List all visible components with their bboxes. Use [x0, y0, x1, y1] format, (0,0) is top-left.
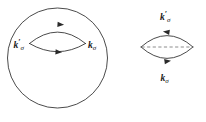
left-lower-arrow-icon	[55, 49, 62, 55]
figure-root: k′σ kσ k′σ kσ	[0, 0, 206, 122]
left-lens-upper-arc	[30, 32, 86, 44]
right-sigma-subscript: σ	[167, 16, 171, 24]
right-lens-lower-arc	[141, 47, 193, 59]
right-sigma-subscript-2: σ	[165, 77, 169, 85]
left-sigma-subscript-2: σ	[93, 43, 97, 51]
right-lens-upper-arc	[141, 36, 193, 48]
diagram-canvas: k′σ kσ k′σ kσ	[0, 0, 206, 122]
left-label-k-prime-sigma: k′σ	[14, 38, 25, 52]
lens-panel: k′σ kσ	[141, 10, 193, 85]
left-sigma-subscript: σ	[21, 43, 25, 51]
fermi-surface-panel: k′σ kσ	[8, 8, 108, 108]
fermi-surface-circle	[8, 8, 108, 108]
left-upper-arrow-icon	[57, 22, 64, 28]
left-label-k-sigma: kσ	[88, 40, 97, 52]
right-label-k-sigma: kσ	[161, 73, 170, 85]
right-lower-arrow-icon	[164, 58, 171, 64]
right-label-k-prime-sigma: k′σ	[160, 10, 171, 24]
right-upper-arrow-icon	[163, 29, 170, 35]
